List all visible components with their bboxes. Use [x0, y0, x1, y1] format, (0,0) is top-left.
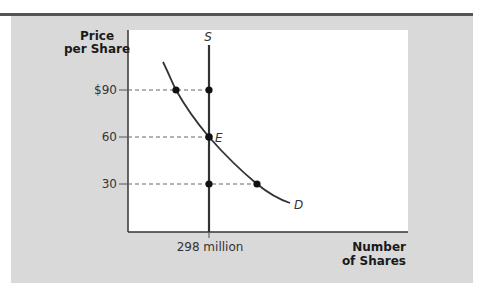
point-equilibrium: [205, 133, 213, 141]
equilibrium-label: E: [215, 131, 223, 145]
y-tick-label-60: 60: [102, 130, 117, 144]
x-axis-title-line2: of Shares: [342, 254, 406, 268]
point-demand-30: [253, 180, 260, 187]
chart: Price per Share Number of Shares $90 60 …: [0, 0, 497, 295]
point-supply-90: [205, 86, 212, 93]
y-tick-label-30: 30: [102, 177, 117, 191]
x-tick-label-298: 298 million: [177, 240, 244, 254]
point-supply-30: [205, 180, 212, 187]
point-demand-90: [172, 86, 179, 93]
y-axis-title-line2: per Share: [64, 42, 130, 56]
y-axis-title-line1: Price: [80, 29, 114, 43]
supply-label: S: [204, 30, 212, 44]
plot-area: [128, 30, 408, 232]
demand-label: D: [294, 198, 303, 212]
y-tick-label-90: $90: [94, 83, 117, 97]
x-axis-title-line1: Number: [352, 240, 406, 254]
